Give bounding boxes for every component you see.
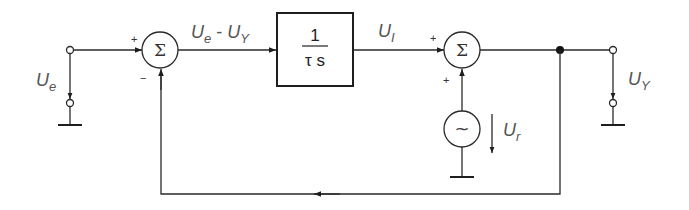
summer2-plus-sign-left: + [430,32,436,44]
summing-junction-1: Σ + − [131,32,178,84]
output-terminal-top [610,47,617,54]
feedback-path [161,50,560,194]
input-terminal [58,47,82,126]
ac-source-icon: ~ [454,118,469,139]
sigma-icon: Σ [456,40,468,60]
summer2-plus-sign-bottom: + [443,74,449,86]
integrator-box [277,13,353,86]
disturbance-source: ~ [444,111,480,177]
summer1-minus-sign: − [140,72,146,84]
output-terminal [601,47,625,126]
integrator-output-label: UI [378,21,395,45]
feedback-line [161,50,560,194]
transfer-numerator: 1 [310,26,319,45]
sigma-icon: Σ [154,40,166,60]
input-voltage-label: Ue [36,70,56,94]
summing-junction-2: Σ + + [430,32,480,86]
summer1-plus-sign: + [131,33,137,45]
output-voltage-label: UY [628,69,651,93]
output-terminal-bottom [610,100,617,107]
disturbance-label: Ur [503,120,521,144]
input-terminal-bottom [67,100,74,107]
block-diagram: Ue Σ + − Ue - UY 1 τ s UI Σ + + ~ Ur [0,0,689,210]
integrator-block: 1 τ s [277,13,353,86]
transfer-denominator: τ s [305,51,325,70]
error-signal-label: Ue - UY [191,22,250,46]
input-terminal-top [67,47,74,54]
